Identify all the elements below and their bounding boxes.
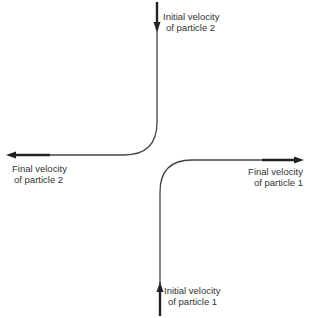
label-line: of particle 1 (164, 296, 221, 307)
label-initial-velocity-2: Initial velocity of particle 2 (163, 11, 220, 33)
arrowhead-right-icon (294, 157, 304, 164)
arrowhead-down-icon (154, 22, 161, 32)
arrowhead-left-icon (6, 152, 16, 159)
collision-diagram (0, 0, 309, 318)
label-line: of particle 2 (163, 22, 220, 33)
label-initial-velocity-1: Initial velocity of particle 1 (164, 285, 221, 307)
label-line: Initial velocity (163, 11, 220, 22)
label-line: of particle 2 (12, 174, 67, 185)
label-final-velocity-1: Final velocity of particle 1 (248, 166, 303, 188)
arrowhead-up-icon (157, 282, 164, 292)
particle-2-path (14, 2, 157, 155)
label-final-velocity-2: Final velocity of particle 2 (12, 163, 67, 185)
label-line: Final velocity (12, 163, 67, 174)
label-line: of particle 1 (248, 177, 303, 188)
label-line: Initial velocity (164, 285, 221, 296)
label-line: Final velocity (248, 166, 303, 177)
